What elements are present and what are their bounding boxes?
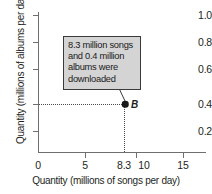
annotation-line-3: albums were (68, 62, 136, 73)
data-point-b (122, 101, 129, 108)
x-axis-tick-label: 0 (35, 159, 41, 171)
x-axis-tick (136, 153, 137, 158)
x-axis-line (38, 152, 206, 153)
x-axis-tick-label: 5 (82, 159, 88, 171)
y-axis-tick (33, 42, 39, 43)
y-axis-tick-label: 1.0 (182, 9, 212, 21)
y-axis-tick-label: 0.8 (182, 36, 212, 48)
y-axis-title: Quantity (millions of albums per day) (15, 0, 26, 148)
y-axis-tick (33, 69, 39, 70)
x-axis-tick-label: 8.3 (117, 159, 131, 171)
x-axis-tick (183, 153, 184, 158)
data-point-b-label: B (131, 99, 138, 110)
x-axis-title: Quantity (millions of songs per day) (0, 175, 212, 186)
x-axis-tick-label: 10 (138, 159, 149, 171)
x-axis-tick (85, 153, 86, 158)
guide-line-horizontal (39, 104, 124, 105)
annotation-line-4: downloaded (68, 74, 136, 85)
annotation-box: 8.3 million songs and 0.4 million albums… (63, 36, 141, 90)
guide-line-vertical (124, 105, 125, 152)
y-axis-tick (33, 15, 39, 16)
y-axis-tick-label: 0.4 (182, 98, 212, 110)
scatter-chart: 1.0 0.8 0.6 0.4 0.2 0 5 8.3 10 15 B 8.3 … (0, 0, 212, 194)
annotation-line-1: 8.3 million songs (68, 40, 136, 51)
y-axis-tick-label: 0.2 (182, 125, 212, 137)
x-axis-tick-label: 15 (177, 159, 188, 171)
annotation-line-2: and 0.4 million (68, 51, 136, 62)
y-axis-tick-label: 0.6 (182, 63, 212, 75)
y-axis-tick (33, 131, 39, 132)
